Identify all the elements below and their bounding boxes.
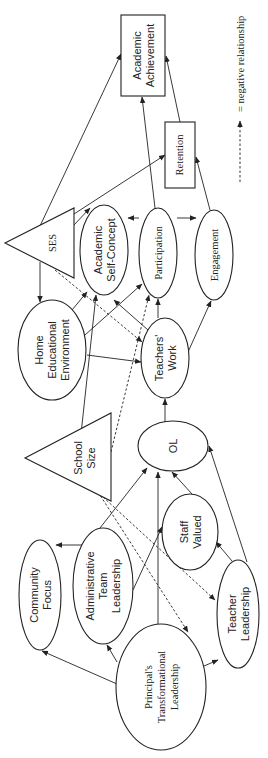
community-focus-label-2: Focus [41, 580, 53, 610]
ol-label: OL [167, 439, 179, 454]
principal-label-2: Transformational [156, 651, 167, 724]
legend: = negative relationship [235, 16, 246, 182]
node-principals-transformational-leadership: Principal's Transformational Leadership [116, 624, 206, 750]
edge-ses-to-retention [74, 155, 165, 214]
legend-text: = negative relationship [235, 16, 246, 112]
teacher-leadership-label-1: Teacher [226, 594, 238, 633]
edge-principal-to-community [42, 651, 117, 684]
academic-achievement-label-2: Achievement [144, 24, 156, 88]
principal-label-1: Principal's [143, 665, 154, 709]
node-engagement: Engagement [195, 210, 233, 300]
node-academic-self-concept: Academic Self-Concept [80, 205, 128, 295]
academic-achievement-label-1: Academic [131, 31, 143, 80]
school-size-label-2: Size [85, 447, 97, 468]
node-community-focus: Community Focus [19, 540, 61, 650]
node-academic-achievement: Academic Achievement [121, 15, 165, 96]
principal-label-3: Leadership [169, 664, 180, 711]
teachers-work-label-2: Work [166, 345, 178, 371]
edge-retention-to-achievement [166, 56, 180, 122]
node-home-educational-environment: Home Educational Environment [18, 300, 86, 400]
self-concept-label-2: Self-Concept [105, 218, 117, 282]
edge-principal-to-admin [107, 645, 117, 662]
edge-ses-to-achievement [40, 54, 121, 226]
edge-teachers-work-to-engagement [188, 301, 211, 352]
admin-team-label-1: Administrative [84, 551, 96, 620]
node-administrative-team-leadership: Administrative Team Leadership [73, 528, 133, 644]
diagram-canvas: Academic Achievement Retention SES Acade… [0, 0, 268, 758]
node-school-size: School Size [25, 413, 111, 501]
school-size-label-1: School [72, 441, 84, 475]
home-label-2: Educational [46, 321, 58, 379]
admin-team-label-3: Leadership [110, 559, 122, 613]
node-teachers-work: Teachers' Work [141, 318, 189, 398]
home-label-3: Environment [59, 319, 71, 381]
engagement-label: Engagement [209, 229, 220, 282]
edge-home-to-teachers-work [87, 355, 141, 362]
staff-valued-label-1: Staff [178, 520, 190, 543]
edge-teacher-leadership-to-staff-valued [216, 542, 232, 561]
participation-label: Participation [153, 225, 164, 279]
staff-valued-label-2: Valued [191, 515, 203, 548]
home-label-1: Home [33, 335, 45, 364]
node-retention: Retention [165, 122, 195, 188]
ses-label: SES [47, 234, 58, 252]
node-staff-valued: Staff Valued [162, 494, 218, 570]
retention-label: Retention [174, 134, 185, 176]
edge-engagement-to-retention [196, 157, 210, 210]
community-focus-label-1: Community [28, 567, 40, 623]
node-participation: Participation [139, 208, 177, 298]
teachers-work-label-1: Teachers' [153, 335, 165, 382]
edge-home-to-self-concept [72, 292, 87, 310]
edge-staff-valued-to-ol [172, 472, 192, 494]
self-concept-label-1: Academic [92, 225, 104, 274]
node-ol: OL [138, 421, 208, 471]
admin-team-label-2: Team [97, 573, 109, 600]
node-ses: SES [5, 208, 74, 278]
node-teacher-leadership: Teacher Leadership [217, 560, 259, 668]
edge-principal-to-teacher-leadership [204, 660, 218, 666]
teacher-leadership-label-2: Leadership [239, 587, 251, 641]
edge-participation-to-achievement [142, 97, 155, 208]
